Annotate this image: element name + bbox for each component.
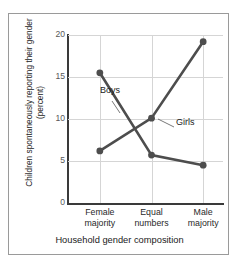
y-axis-tick-label: 15 — [45, 71, 65, 81]
series-lines — [68, 35, 223, 203]
data-point-boys — [200, 162, 207, 169]
x-axis-title: Household gender composition — [9, 235, 230, 245]
y-axis-tick-label: 0 — [45, 197, 65, 207]
plot-area: Boys Girls — [68, 35, 223, 203]
leader-line-girls — [158, 119, 174, 127]
x-axis-line — [67, 203, 224, 205]
y-axis-tick-label: 20 — [45, 29, 65, 39]
chart-figure-frame: Children spontaneously reporting their g… — [8, 13, 229, 255]
y-axis-tick-labels: 05101520 — [39, 14, 65, 256]
data-point-boys — [96, 69, 103, 76]
data-point-boys — [148, 152, 155, 159]
data-point-girls — [96, 148, 103, 155]
data-point-girls — [200, 38, 207, 45]
data-point-girls — [148, 115, 155, 122]
series-label-boys: Boys — [100, 85, 120, 95]
top-cut-off-text — [0, 0, 237, 11]
y-axis-tick-label: 5 — [45, 155, 65, 165]
x-axis-tick-label: Male majority — [172, 207, 234, 228]
y-axis-tick-label: 10 — [45, 113, 65, 123]
series-label-girls: Girls — [176, 117, 195, 127]
